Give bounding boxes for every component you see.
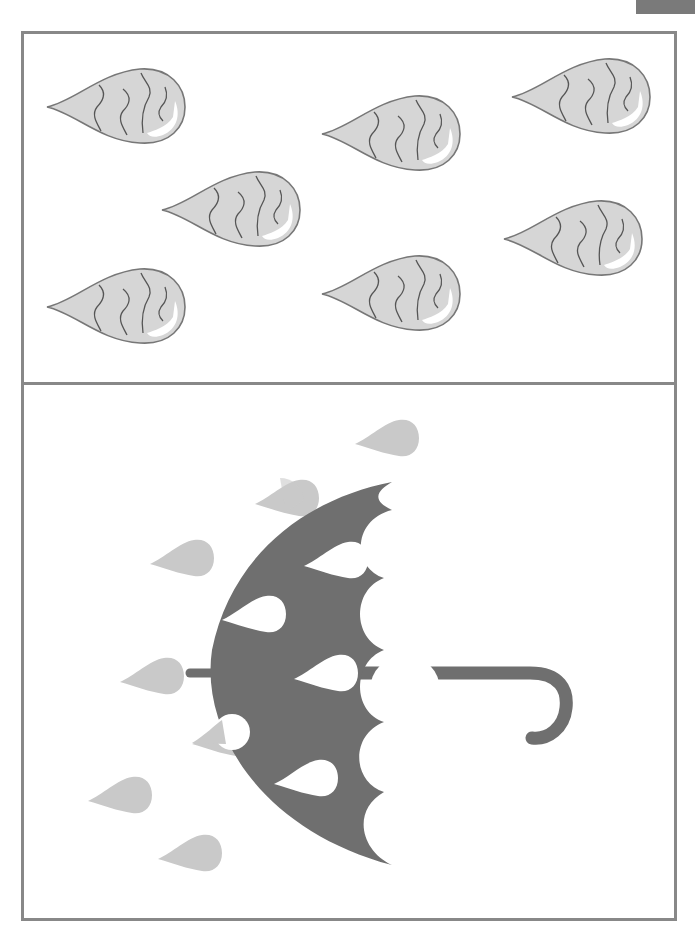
- raindrop-1: [47, 69, 185, 143]
- umbrella-icon: [190, 478, 566, 866]
- raindrop-7: [322, 256, 460, 330]
- raindrop-3: [512, 59, 650, 133]
- raindrop-6: [47, 269, 185, 343]
- raindrop-4: [162, 172, 300, 246]
- worksheet-art: [0, 0, 695, 930]
- raindrop-5: [504, 201, 642, 275]
- raindrop-2: [322, 96, 460, 170]
